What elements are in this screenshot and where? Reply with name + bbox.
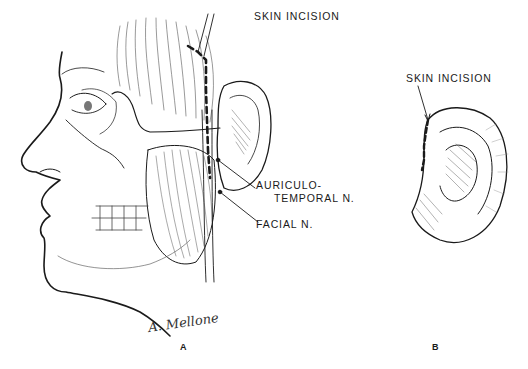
label-auriculotemporal-nerve-line1: AURICULO-: [256, 179, 322, 191]
label-skin-incision-b: SKIN INCISION: [406, 72, 492, 84]
label-auriculotemporal-nerve-line2: TEMPORAL N.: [274, 192, 355, 204]
panel-b-ear-drawing: [412, 86, 508, 242]
label-skin-incision-a: SKIN INCISION: [254, 10, 340, 22]
panel-letter-a: A: [180, 342, 187, 352]
panel-letter-b: B: [432, 342, 439, 352]
panel-a-face-drawing: [22, 14, 271, 336]
label-facial-nerve: FACIAL N.: [256, 218, 313, 230]
